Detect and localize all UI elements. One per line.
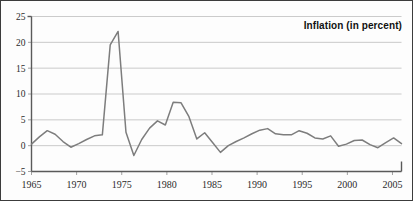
chart-figure: −50510152025 196519701975198019851990199…: [0, 0, 413, 201]
data-line-series-0: [32, 31, 402, 155]
x-tick-label-1985: 1985: [202, 179, 222, 190]
x-tick-label-2005: 2005: [382, 179, 402, 190]
y-tick-label-15: 15: [16, 64, 26, 74]
x-tick-label-1980: 1980: [157, 179, 177, 190]
y-axis-labels-group: −50510152025: [15, 12, 25, 177]
x-tick-label-1970: 1970: [67, 179, 87, 190]
inflation-line-chart: −50510152025 196519701975198019851990199…: [1, 1, 413, 201]
y-tick-label-5: 5: [21, 115, 26, 125]
y-tick-label--5: −5: [15, 167, 25, 177]
y-tick-label-25: 25: [16, 12, 26, 22]
gridlines-group: [32, 17, 402, 146]
x-tick-label-1975: 1975: [112, 179, 132, 190]
x-tick-label-1995: 1995: [292, 179, 312, 190]
y-tick-label-10: 10: [16, 89, 26, 99]
plot-area: −50510152025 196519701975198019851990199…: [1, 1, 413, 201]
y-tick-label-0: 0: [21, 141, 26, 151]
x-axis-labels-group: 196519701975198019851990199520002005: [22, 179, 403, 190]
chart-title: Inflation (in percent): [304, 20, 402, 31]
data-series-group: [32, 31, 402, 155]
y-tick-label-20: 20: [16, 38, 26, 48]
tickmarks-group: [28, 17, 392, 176]
x-tick-label-2000: 2000: [337, 179, 357, 190]
x-tick-label-1965: 1965: [22, 179, 42, 190]
x-tick-label-1990: 1990: [247, 179, 267, 190]
